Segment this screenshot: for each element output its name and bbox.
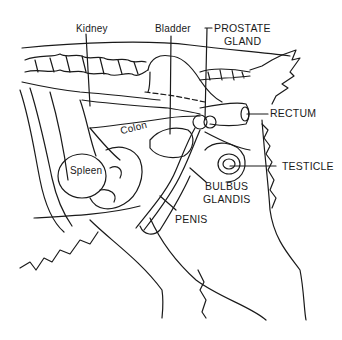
anatomy-diagram: Kidney Bladder PROSTATE GLAND RECTUM Col… — [0, 0, 342, 340]
label-bladder: Bladder — [155, 23, 191, 34]
scrotum — [205, 143, 245, 182]
belly-fur — [20, 232, 98, 270]
intestine-loops — [100, 167, 121, 202]
kidney-leader — [86, 34, 90, 106]
spleen — [58, 154, 106, 198]
front-leg — [90, 220, 163, 318]
bladder-leader — [170, 36, 171, 134]
label-kidney: Kidney — [76, 23, 108, 34]
testicle — [218, 154, 240, 174]
bladder-shape — [150, 128, 193, 157]
rib-line-1 — [20, 90, 64, 232]
label-rectum: RECTUM — [270, 108, 316, 119]
label-bulbus-line2: GLANDIS — [203, 194, 251, 205]
leg-fur — [198, 270, 206, 318]
colon-loop — [90, 128, 120, 160]
label-spleen: Spleen — [70, 165, 102, 176]
label-prostate-line1: PROSTATE — [214, 23, 271, 34]
colon-top — [82, 100, 200, 114]
duct — [205, 132, 250, 150]
tail-fur — [250, 50, 300, 104]
testicle-inner — [223, 159, 235, 169]
penis-leader — [160, 196, 176, 210]
spine-bottom — [25, 70, 148, 75]
spine-top — [25, 54, 146, 62]
label-bulbus-line1: BULBUS — [205, 181, 248, 192]
label-testicle: TESTICLE — [282, 161, 334, 172]
hind-leg — [150, 218, 266, 320]
prostate-2 — [204, 116, 216, 128]
pelvis-inner — [148, 72, 150, 92]
body-line — [22, 82, 160, 100]
rib-line-3 — [50, 92, 68, 180]
ureter-dashed — [145, 92, 205, 102]
bulbus-leader — [190, 168, 206, 182]
label-prostate-line2: GLAND — [224, 36, 261, 47]
tail-vertebrae — [200, 69, 250, 80]
rib-line-2 — [30, 88, 72, 226]
label-penis: PENIS — [175, 214, 208, 225]
